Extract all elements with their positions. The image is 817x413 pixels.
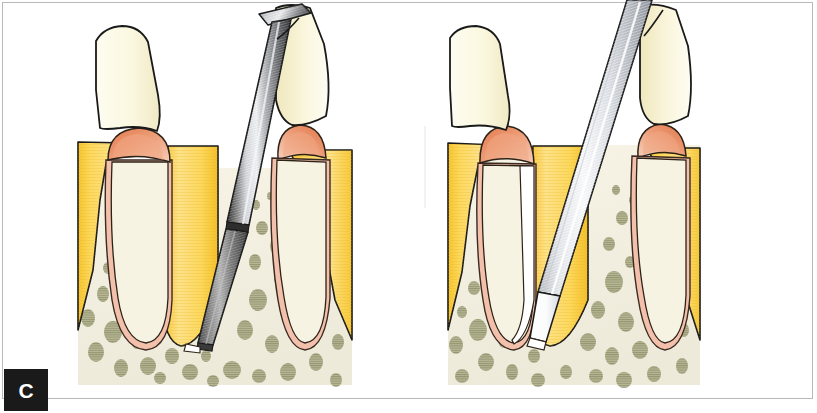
interdental-papilla-left-distal xyxy=(278,125,326,160)
adjacent-tooth-crown-right-panel xyxy=(640,5,691,125)
interdental-papilla-right-mesial xyxy=(480,126,534,164)
interdental-papilla-right-distal xyxy=(638,124,686,158)
figure-caption-badge: C xyxy=(4,369,48,411)
dental-illustration xyxy=(0,0,817,413)
panel-right xyxy=(448,0,700,388)
panel-left xyxy=(78,4,352,387)
figure-root: C xyxy=(0,0,817,413)
interdental-papilla-left xyxy=(108,128,170,162)
figure-caption-letter: C xyxy=(18,380,33,401)
tooth-crown-left xyxy=(96,26,160,131)
tooth-crown-right-panel xyxy=(450,26,510,130)
